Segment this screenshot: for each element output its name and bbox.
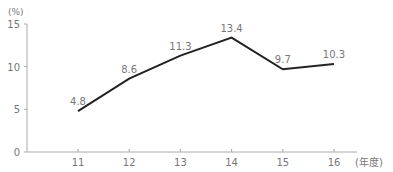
y-axis-unit-label: (%): [8, 7, 24, 17]
y-tick-label: 0: [14, 147, 20, 158]
x-tick-label: 13: [174, 157, 187, 168]
data-line: [78, 38, 334, 111]
data-label: 10.3: [323, 49, 345, 60]
x-tick-label: 14: [225, 157, 238, 168]
x-tick-label: 12: [123, 157, 136, 168]
y-ticks: 051015: [7, 19, 27, 158]
line-chart: (%) 051015 111213141516 4.88.611.313.49.…: [0, 0, 393, 172]
y-tick-label: 5: [14, 104, 20, 115]
data-label: 9.7: [275, 54, 291, 65]
data-label: 11.3: [169, 41, 191, 52]
x-tick-label: 15: [276, 157, 289, 168]
y-tick-label: 15: [7, 19, 20, 30]
data-labels: 4.88.611.313.49.710.3: [70, 23, 345, 107]
data-label: 13.4: [220, 23, 242, 34]
data-label: 8.6: [121, 64, 137, 75]
data-label: 4.8: [70, 96, 86, 107]
x-axis-unit-label: (年度): [355, 156, 383, 168]
x-tick-label: 11: [72, 157, 85, 168]
y-tick-label: 10: [7, 62, 20, 73]
x-tick-label: 16: [328, 157, 341, 168]
